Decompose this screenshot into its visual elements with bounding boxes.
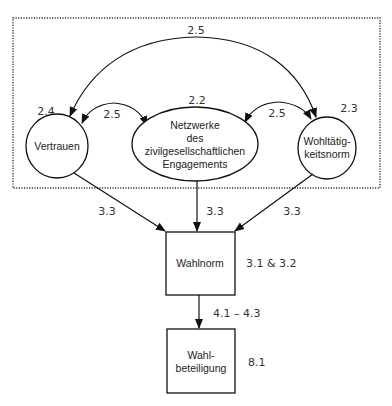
edge-wohltaetigkeit-wahlnorm: [235, 174, 313, 231]
node-wahlbeteiligung-label-line-2: beteiligung: [176, 362, 227, 374]
edge-arc-vertrauen-wohltaetigkeit: [70, 37, 196, 116]
node-wahlbeteiligung-label-line-1: Wahl-: [187, 349, 215, 361]
node-wohltaetigkeitsnorm: Wohltätig- keitsnorm: [298, 117, 356, 179]
node-wahlnorm-label: Wahlnorm: [176, 257, 224, 269]
node-netzwerke-section: 2.2: [188, 94, 206, 107]
path-diagram: 2.5 2.5 2.5 Vertrauen 2.4 Netzwerke des …: [0, 0, 392, 406]
edge-label-vertrauen-wahlnorm: 3.3: [98, 205, 116, 218]
node-netzwerke-label-line-4: Engagements: [163, 158, 228, 170]
node-vertrauen-label: Vertrauen: [34, 140, 80, 152]
node-wahlbeteiligung: Wahl- beteiligung: [167, 329, 235, 393]
edge-vertrauen-wahlnorm: [74, 173, 165, 231]
node-netzwerke-label-line-2: des: [187, 132, 204, 144]
node-wohltaetigkeit-label-line-2: keitsnorm: [304, 148, 350, 160]
node-vertrauen: Vertrauen: [26, 114, 88, 178]
edge-label-top-arc: 2.5: [187, 24, 205, 37]
edge-label-wohltaetigkeit-wahlnorm: 3.3: [283, 205, 301, 218]
node-netzwerke-label-line-1: Netzwerke: [170, 119, 220, 131]
node-wohltaetigkeit-section: 2.3: [340, 102, 358, 115]
node-wahlnorm-section: 3.1 & 3.2: [246, 257, 297, 270]
node-vertrauen-section: 2.4: [37, 105, 55, 118]
edge-label-right-arc: 2.5: [268, 107, 286, 120]
node-wahlnorm: Wahlnorm: [166, 232, 235, 295]
node-wohltaetigkeit-label-line-1: Wohltätig-: [303, 135, 351, 147]
node-netzwerke: Netzwerke des zivilgesellschaftlichen En…: [132, 107, 258, 181]
node-netzwerke-label-line-3: zivilgesellschaftlichen: [145, 145, 246, 157]
node-wahlbeteiligung-section: 8.1: [248, 356, 266, 369]
edge-label-netzwerke-wahlnorm: 3.3: [206, 205, 224, 218]
edge-label-left-arc: 2.5: [103, 108, 121, 121]
edge-arc-wohltaetigkeit-vertrauen: [196, 37, 316, 117]
edge-label-wahlnorm-wahlbeteiligung: 4.1 – 4.3: [213, 307, 260, 320]
